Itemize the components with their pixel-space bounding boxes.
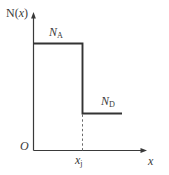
donor-concentration-label: ND bbox=[101, 95, 115, 107]
acceptor-label-subscript: A bbox=[57, 31, 63, 40]
y-axis-label-paren-close: ) bbox=[24, 6, 28, 20]
acceptor-concentration-label: NA bbox=[49, 26, 63, 38]
acceptor-label-symbol: N bbox=[49, 25, 57, 39]
y-axis-label-n: N bbox=[6, 6, 15, 20]
step-doping-profile-figure: N(x) x O NA ND xj bbox=[0, 0, 169, 175]
junction-tick-label: xj bbox=[75, 154, 83, 166]
y-axis-arrowhead bbox=[31, 12, 36, 19]
y-axis bbox=[31, 12, 36, 151]
x-axis-arrowhead bbox=[141, 148, 148, 153]
junction-label-subscript: j bbox=[80, 159, 82, 168]
x-axis bbox=[34, 148, 148, 153]
y-axis-label: N(x) bbox=[6, 7, 28, 19]
x-axis-label: x bbox=[148, 155, 153, 167]
donor-label-subscript: D bbox=[109, 100, 115, 109]
donor-label-symbol: N bbox=[101, 94, 109, 108]
origin-label: O bbox=[20, 140, 29, 152]
